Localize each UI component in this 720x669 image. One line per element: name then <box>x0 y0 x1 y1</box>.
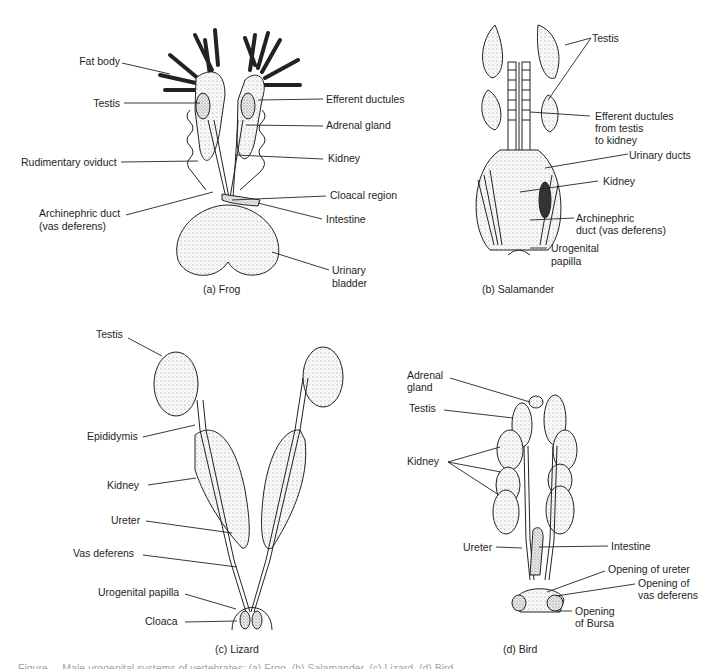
caption-frog: (a) Frog <box>203 283 240 295</box>
label-frog-cloacal-region: Cloacal region <box>330 189 397 202</box>
label-bird-intestine: Intestine <box>611 540 651 553</box>
frog-testis-right <box>241 93 255 119</box>
bird-adrenal <box>529 396 543 408</box>
label-lizard-urogenital-papilla: Urogenital papilla <box>98 586 179 599</box>
label-bird-kidney: Kidney <box>407 455 439 468</box>
label-salamander-efferent-3: to kidney <box>595 134 637 147</box>
label-bird-testis: Testis <box>409 402 436 415</box>
label-salamander-kidney: Kidney <box>603 175 635 188</box>
label-lizard-ureter: Ureter <box>111 514 140 527</box>
caption-bird: (d) Bird <box>503 643 537 655</box>
label-salamander-urogenital-1: Urogenital <box>551 242 599 255</box>
label-salamander-urinary-ducts: Urinary ducts <box>629 149 691 162</box>
label-bird-opening-bursa-2: of Bursa <box>575 617 614 630</box>
lizard-testis-right <box>303 347 343 407</box>
label-bird-ureter: Ureter <box>463 541 492 554</box>
label-frog-bladder: bladder <box>332 277 367 290</box>
label-frog-adrenal-gland: Adrenal gland <box>326 119 391 132</box>
caption-salamander: (b) Salamander <box>482 283 554 295</box>
label-bird-adrenal-2: gland <box>407 381 433 394</box>
label-frog-fat-body: Fat body <box>40 55 120 68</box>
lizard-kidney-right <box>262 430 306 549</box>
lizard-testis-left <box>154 352 198 416</box>
frog-urinary-bladder <box>177 205 279 275</box>
lizard-drawing <box>154 347 343 630</box>
label-frog-testis: Testis <box>40 97 120 110</box>
label-frog-kidney: Kidney <box>328 152 360 165</box>
salamander-testis-left-upper <box>483 25 503 78</box>
label-frog-efferent-ductules: Efferent ductules <box>326 93 405 106</box>
lizard-kidney-left <box>195 430 249 548</box>
label-salamander-urogenital-2: papilla <box>551 255 581 268</box>
salamander-testis-right-upper <box>537 25 559 78</box>
label-lizard-testis: Testis <box>96 328 123 341</box>
frog-drawing <box>160 30 300 275</box>
frog-testis-left <box>196 93 210 119</box>
salamander-testis-left-lower <box>482 90 501 130</box>
label-salamander-testis: Testis <box>592 32 619 45</box>
label-frog-urinary: Urinary <box>332 264 366 277</box>
bird-intestine <box>530 528 543 575</box>
label-lizard-epididymis: Epididymis <box>87 430 138 443</box>
bird-drawing <box>493 395 577 612</box>
label-lizard-kidney: Kidney <box>107 479 139 492</box>
label-frog-intestine: Intestine <box>326 213 366 226</box>
label-frog-vas-deferens: (vas deferens) <box>39 220 106 233</box>
label-bird-opening-ureter: Opening of ureter <box>608 563 690 576</box>
label-bird-opening-vas-2: vas deferens <box>638 589 698 602</box>
figure-caption-clipped: Figure ... Male urogenital systems of ve… <box>18 662 453 669</box>
label-lizard-vas-deferens: Vas deferens <box>73 547 134 560</box>
salamander-urogenital-papilla <box>508 250 530 255</box>
frog-fat-body-left <box>160 30 225 160</box>
bird-leader-lines <box>444 378 635 611</box>
label-frog-archinephric-duct: Archinephric duct <box>39 207 120 220</box>
label-frog-rudimentary-oviduct: Rudimentary oviduct <box>21 156 117 169</box>
label-salamander-archinephric-2: duct (vas deferens) <box>576 224 666 237</box>
label-lizard-cloaca: Cloaca <box>145 615 178 628</box>
caption-lizard: (c) Lizard <box>215 643 259 655</box>
salamander-drawing <box>476 25 561 255</box>
